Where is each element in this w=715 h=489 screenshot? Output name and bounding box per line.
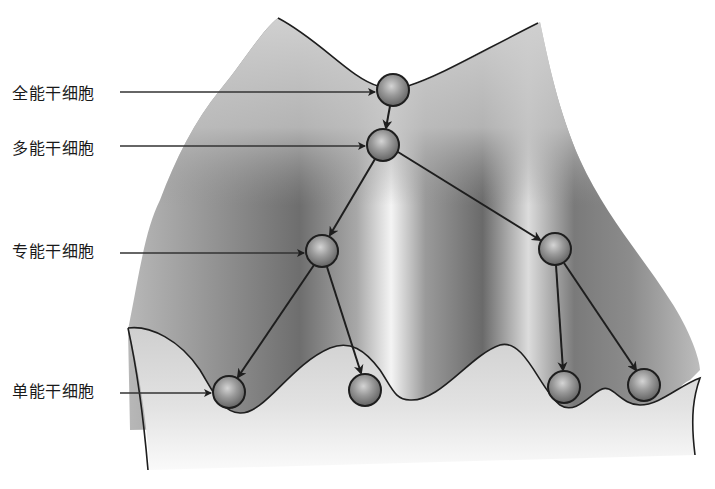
cell-unipotent-1 [213, 376, 245, 408]
label-pluripotent-stem-cell: 多能干细胞 [12, 139, 95, 159]
cell-pluripotent [367, 129, 399, 161]
waddington-landscape-diagram [0, 0, 715, 489]
cell-unipotent-2 [349, 374, 381, 406]
landscape-surface [128, 18, 700, 430]
cell-totipotent [377, 74, 409, 106]
label-multipotent-stem-cell: 专能干细胞 [12, 242, 95, 262]
label-unipotent-stem-cell: 单能干细胞 [12, 382, 95, 402]
cell-unipotent-3 [548, 371, 580, 403]
cell-multipotent-left [306, 235, 338, 267]
cell-multipotent-right [539, 233, 571, 265]
cell-unipotent-4 [628, 369, 660, 401]
label-totipotent-stem-cell: 全能干细胞 [12, 84, 95, 104]
